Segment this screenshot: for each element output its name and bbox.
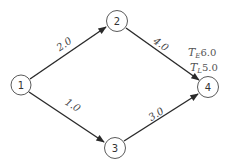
edge-3-4: 3.0: [124, 94, 198, 141]
tl-value: 5.0: [202, 62, 218, 73]
tl-annotation: TL5.0: [190, 61, 218, 75]
node-label: 3: [112, 143, 118, 154]
node-1: 1: [11, 75, 31, 95]
te-value: 6.0: [200, 47, 216, 58]
node-2: 2: [107, 11, 128, 32]
edge-label-2-4: 4.0: [151, 34, 172, 53]
edge-label-1-3: 1.0: [63, 96, 83, 114]
time-annotation: TE6.0 TL5.0: [188, 46, 218, 75]
node-4: 4: [198, 77, 219, 98]
edge-label-3-4: 3.0: [146, 105, 166, 123]
node-label: 2: [114, 16, 120, 27]
edge-1-2: 2.0: [30, 27, 106, 79]
node-label: 1: [18, 80, 24, 91]
network-diagram: 2.0 1.0 4.0 3.0 1 2 3 4 TE6.0 TL5.0: [0, 0, 233, 168]
arrow-icon: [30, 27, 106, 79]
edge-1-3: 1.0: [29, 92, 104, 142]
node-label: 4: [205, 82, 211, 93]
arrow-icon: [124, 94, 198, 141]
te-annotation: TE6.0: [188, 46, 216, 60]
node-3: 3: [105, 138, 126, 159]
